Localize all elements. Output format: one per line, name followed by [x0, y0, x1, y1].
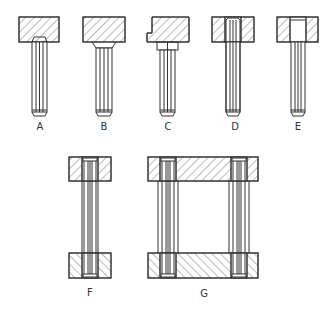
- variant-b: [83, 17, 125, 116]
- variant-d: [212, 17, 254, 116]
- variant-a: [19, 17, 59, 116]
- label-f: F: [87, 287, 93, 298]
- label-d: D: [231, 121, 239, 132]
- label-c: C: [165, 121, 172, 132]
- variant-f: [69, 157, 111, 278]
- variant-e: [277, 17, 318, 116]
- variant-c: [147, 17, 189, 116]
- label-e: E: [295, 121, 301, 132]
- label-g: G: [200, 288, 208, 299]
- label-a: A: [37, 121, 44, 132]
- technical-drawing: [0, 0, 334, 315]
- variant-g: [148, 157, 258, 278]
- label-b: B: [101, 121, 108, 132]
